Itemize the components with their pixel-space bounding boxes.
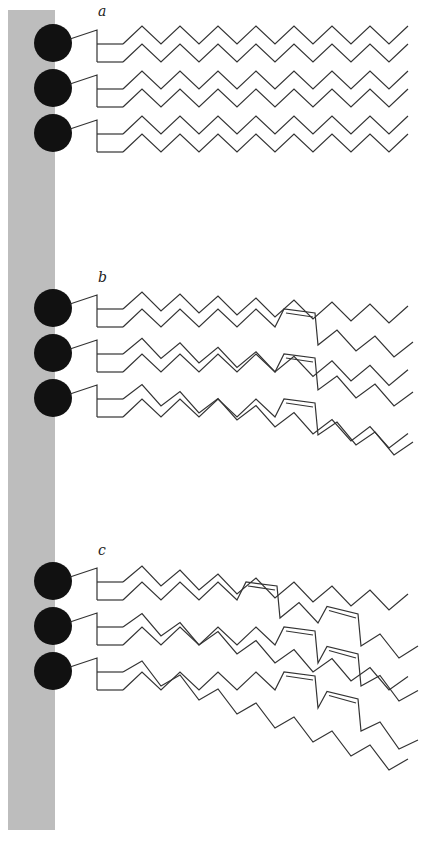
head-group-c-1 <box>34 607 72 645</box>
backbone-c-0 <box>70 568 97 600</box>
tail-c-2-1 <box>123 672 418 749</box>
head-group-b-2 <box>34 379 72 417</box>
tail-b-0-1 <box>123 309 413 357</box>
cis-double-bond <box>248 586 275 590</box>
lipid-monolayer-diagram: a b c <box>0 0 432 842</box>
tail-a-0-1 <box>123 44 408 62</box>
head-group-a-0 <box>34 24 72 62</box>
backbone-a-0 <box>70 30 97 62</box>
head-group-a-1 <box>34 69 72 107</box>
tail-c-2-0 <box>123 661 408 770</box>
cis-double-bond <box>286 676 313 680</box>
diagram-canvas <box>0 0 432 842</box>
tail-a-0-0 <box>123 26 408 44</box>
head-group-b-0 <box>34 289 72 327</box>
backbone-c-1 <box>70 613 97 645</box>
head-group-c-0 <box>34 562 72 600</box>
tail-a-2-1 <box>123 134 408 152</box>
cis-double-bond <box>329 651 356 659</box>
tail-a-1-0 <box>123 71 408 89</box>
tail-b-1-0 <box>123 338 408 385</box>
cis-double-bond <box>286 403 313 407</box>
cis-double-bond <box>329 611 356 619</box>
cis-double-bond <box>286 631 313 635</box>
backbone-a-1 <box>70 75 97 107</box>
panel-label-b: b <box>98 269 107 285</box>
backbone-c-2 <box>70 658 97 690</box>
backbone-b-0 <box>70 295 97 327</box>
head-group-c-2 <box>34 652 72 690</box>
backbone-b-1 <box>70 340 97 372</box>
tail-b-1-1 <box>123 354 413 406</box>
tail-c-1-0 <box>123 614 408 691</box>
tail-a-2-0 <box>123 116 408 134</box>
head-group-a-2 <box>34 114 72 152</box>
panel-label-a: a <box>98 3 106 19</box>
backbone-b-2 <box>70 385 97 417</box>
panel-label-c: c <box>98 542 106 558</box>
head-group-b-1 <box>34 334 72 372</box>
backbone-a-2 <box>70 120 97 152</box>
tail-a-1-1 <box>123 89 408 107</box>
cis-double-bond <box>329 696 356 704</box>
